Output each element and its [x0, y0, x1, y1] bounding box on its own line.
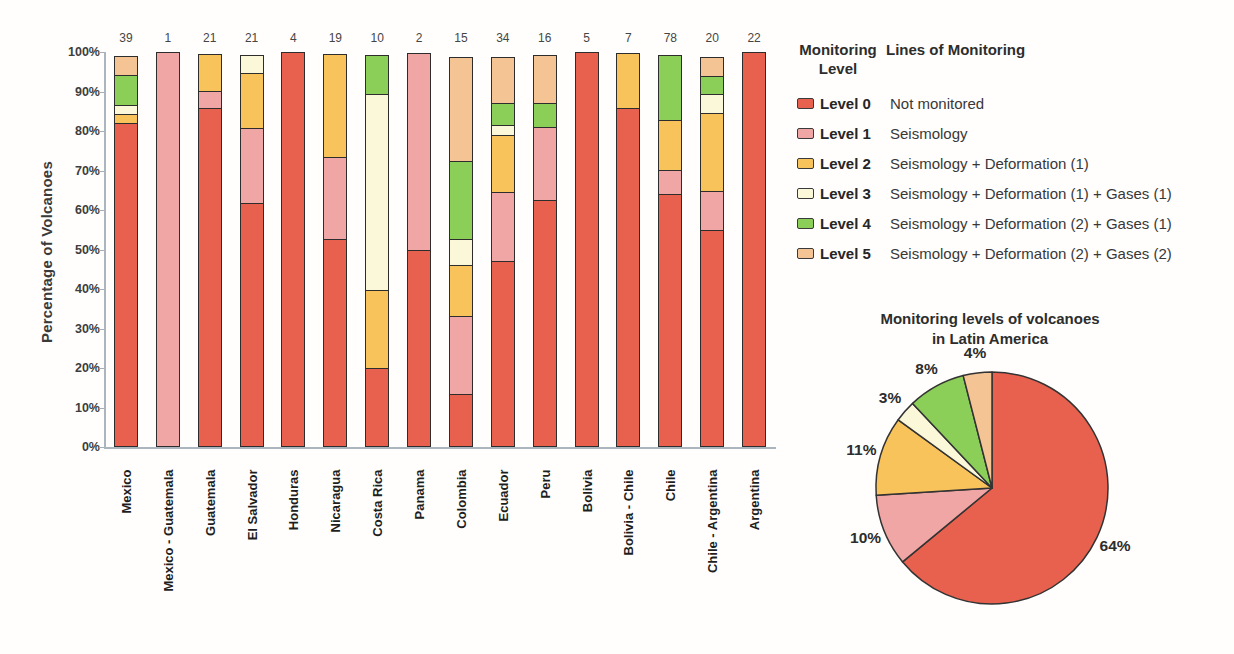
y-tick-label: 100% — [58, 44, 100, 60]
legend-row-level-0: Level 0Not monitored — [0, 94, 1234, 114]
legend-swatch-level-1 — [797, 128, 814, 139]
pie-percent-label: 4% — [964, 344, 987, 361]
x-axis-label: Nicaragua — [328, 470, 343, 640]
bar-segment-level-0 — [407, 250, 431, 448]
legend-header-monitoring-level: Monitoring Level — [788, 40, 888, 78]
bar-count-label: 22 — [732, 31, 776, 45]
legend-header-line2: Level — [788, 59, 888, 78]
legend-row-level-4: Level 4Seismology + Deformation (2) + Ga… — [0, 214, 1234, 234]
y-tick-label: 10% — [58, 400, 100, 416]
legend-header-line1: Monitoring — [788, 40, 888, 59]
pie-percent-label: 64% — [1100, 537, 1131, 554]
pie-percent-label: 11% — [846, 441, 876, 458]
legend-header-lines-of-monitoring: Lines of Monitoring — [886, 41, 1025, 58]
legend-level-label: Level 0 — [820, 94, 871, 114]
pie-percent-label: 10% — [850, 529, 881, 546]
legend-swatch-level-5 — [797, 248, 814, 259]
legend-description: Seismology + Deformation (2) + Gases (1) — [890, 214, 1172, 234]
bar-count-label: 21 — [230, 31, 274, 45]
x-axis-label: Guatemala — [202, 470, 217, 640]
legend-row-level-1: Level 1Seismology — [0, 124, 1234, 144]
bar-count-label: 10 — [355, 31, 399, 45]
pie-percent-label: 3% — [879, 389, 902, 406]
legend-row-level-2: Level 2Seismology + Deformation (1) — [0, 154, 1234, 174]
x-axis-label: Costa Rica — [370, 470, 385, 640]
bar-count-label: 2 — [397, 31, 441, 45]
x-axis-label: Panama — [412, 470, 427, 640]
bar-segment-level-5 — [114, 56, 138, 76]
legend-level-label: Level 1 — [820, 124, 871, 144]
bar-segment-level-0 — [323, 239, 347, 447]
legend-row-level-3: Level 3Seismology + Deformation (1) + Ga… — [0, 184, 1234, 204]
y-tick-label: 0% — [58, 439, 100, 455]
y-tick-label: 40% — [58, 281, 100, 297]
bar-count-label: 34 — [481, 31, 525, 45]
bar-count-label: 19 — [313, 31, 357, 45]
legend-description: Seismology + Deformation (1) — [890, 154, 1089, 174]
legend-description: Seismology — [890, 124, 968, 144]
legend-description: Seismology + Deformation (2) + Gases (2) — [890, 244, 1172, 264]
pie-svg: 64%10%11%3%8%4% — [840, 340, 1150, 650]
x-axis-label: Bolivia — [579, 470, 594, 640]
bar-segment-level-4 — [700, 76, 724, 96]
bar-count-label: 1 — [146, 31, 190, 45]
pie-title-line1: Monitoring levels of volcanoes — [840, 309, 1140, 329]
x-axis-label: Mexico - Guatemala — [160, 470, 175, 640]
bar-count-label: 20 — [690, 31, 734, 45]
bar-segment-level-3 — [240, 55, 264, 74]
bar-segment-level-1 — [449, 316, 473, 395]
x-axis-label: Argentina — [747, 470, 762, 640]
legend-description: Not monitored — [890, 94, 984, 114]
bar-count-label: 4 — [271, 31, 315, 45]
bar-count-label: 39 — [104, 31, 148, 45]
y-tick-label: 20% — [58, 360, 100, 376]
bar-count-label: 15 — [439, 31, 483, 45]
legend-swatch-level-2 — [797, 158, 814, 169]
legend-level-label: Level 2 — [820, 154, 871, 174]
x-axis-line — [104, 447, 776, 449]
x-axis-label: Ecuador — [495, 470, 510, 640]
bar-count-label: 5 — [565, 31, 609, 45]
bar-segment-level-2 — [198, 54, 222, 92]
bar-count-label: 7 — [606, 31, 650, 45]
y-tick-label: 30% — [58, 321, 100, 337]
bar-count-label: 16 — [523, 31, 567, 45]
bar-count-label: 21 — [188, 31, 232, 45]
bar-segment-level-0 — [533, 200, 557, 447]
bar-segment-level-4 — [365, 55, 389, 95]
bar-segment-level-0 — [240, 203, 264, 448]
bar-segment-level-0 — [491, 261, 515, 447]
bar-segment-level-5 — [700, 57, 724, 77]
x-axis-label: El Salvador — [244, 470, 259, 640]
bar-segment-level-0 — [365, 368, 389, 447]
legend-row-level-5: Level 5Seismology + Deformation (2) + Ga… — [0, 244, 1234, 264]
x-axis-label: Mexico — [118, 470, 133, 640]
legend-level-label: Level 3 — [820, 184, 871, 204]
legend-description: Seismology + Deformation (1) + Gases (1) — [890, 184, 1172, 204]
legend-swatch-level-3 — [797, 188, 814, 199]
x-axis-label: Bolivia - Chile — [621, 470, 636, 640]
bar-segment-level-2 — [365, 290, 389, 369]
figure-canvas: Percentage of Volcanoes 0%10%20%30%40%50… — [0, 0, 1234, 654]
legend-level-label: Level 5 — [820, 244, 871, 264]
bar-segment-level-0 — [449, 394, 473, 447]
x-axis-label: Peru — [537, 470, 552, 640]
legend-level-label: Level 4 — [820, 214, 871, 234]
pie-percent-label: 8% — [915, 360, 938, 377]
x-axis-label: Chile - Argentina — [705, 470, 720, 640]
x-axis-label: Honduras — [286, 470, 301, 640]
legend-swatch-level-0 — [797, 98, 814, 109]
bar-count-label: 78 — [648, 31, 692, 45]
x-axis-label: Colombia — [453, 470, 468, 640]
x-axis-label: Chile — [663, 470, 678, 640]
bar-segment-level-2 — [449, 265, 473, 318]
legend-swatch-level-4 — [797, 218, 814, 229]
